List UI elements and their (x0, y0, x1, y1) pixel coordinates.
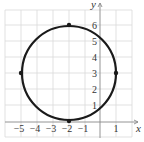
grid (5, 10, 132, 137)
svg-text:4: 4 (92, 52, 97, 63)
svg-text:−1: −1 (78, 123, 89, 134)
svg-text:2: 2 (92, 84, 97, 95)
x-tick-labels: −5 −4 −3 −2 −1 1 (14, 123, 119, 134)
y-axis-label: y (90, 0, 96, 10)
svg-text:5: 5 (92, 36, 97, 47)
x-axis-label: x (135, 122, 141, 134)
svg-text:−3: −3 (46, 123, 57, 134)
svg-text:6: 6 (92, 20, 97, 31)
svg-text:−2: −2 (62, 123, 73, 134)
svg-text:3: 3 (92, 68, 97, 79)
svg-text:−5: −5 (14, 123, 25, 134)
svg-text:1: 1 (114, 123, 119, 134)
chart: −5 −4 −3 −2 −1 1 1 2 3 4 5 6 x y (0, 0, 144, 142)
svg-text:−4: −4 (30, 123, 41, 134)
axes (5, 3, 138, 138)
svg-text:1: 1 (92, 100, 97, 111)
